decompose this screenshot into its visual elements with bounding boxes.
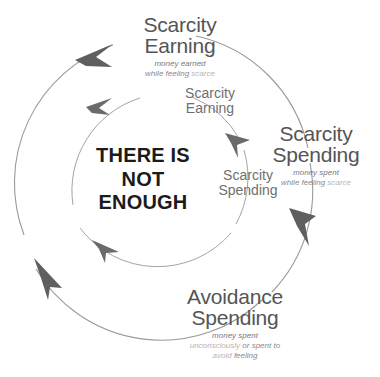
stage-title-line-2: Spending [252,144,380,165]
stage-title-line-1: Avoidance [160,286,310,307]
stage-label-avoidance-spending-outer: Avoidance Spending money spent unconscio… [160,286,310,362]
stage-subtitle: money earned while feeling scarce [100,59,260,79]
stage-title-line-2: Earning [160,101,260,116]
stage-title-line-2: Spending [160,307,310,328]
stage-title-line-1: Scarcity [160,86,260,101]
stage-subtitle-line-2-lead: while feeling [145,69,191,78]
center-line-2: NOT [78,168,208,192]
stage-subtitle-line-3: avoid feeling [160,351,310,361]
stage-title-line-2: Spending [198,183,298,198]
stage-subtitle-line-2: while feeling scarce [100,69,260,79]
stage-subtitle-line-1: money spent [160,331,310,341]
stage-subtitle-line-3-emphasis: feeling [234,351,258,360]
outer-arrowhead-bottom-left [34,258,62,300]
inner-arrowhead-top-left [86,98,112,115]
stage-label-scarcity-earning-inner: Scarcity Earning [160,86,260,116]
stage-subtitle-line-2-emphasis: scarce [191,69,215,78]
stage-title-line-1: Scarcity [252,123,380,144]
center-line-1: THERE IS [78,144,208,168]
stage-subtitle-line-2-emphasis: or spent to [242,341,280,350]
outer-arrowhead-right [289,208,316,246]
stage-title-line-1: Scarcity [198,168,298,183]
stage-subtitle-line-3-lead: avoid [213,351,234,360]
stage-subtitle-line-2-emphasis: scarce [327,178,351,187]
stage-subtitle-line-2: unconsciously or spent to [160,341,310,351]
center-belief-text: THERE IS NOT ENOUGH [78,144,208,215]
stage-label-scarcity-earning-outer: Scarcity Earning money earned while feel… [100,14,260,79]
stage-title-line-2: Earning [100,35,260,56]
stage-subtitle-line-1: money earned [100,59,260,69]
inner-arrowhead-bottom-left [92,240,119,263]
stage-label-scarcity-spending-inner: Scarcity Spending [198,168,298,198]
scarcity-cycle-diagram: THERE IS NOT ENOUGH Scarcity Earning mon… [0,0,380,377]
stage-title-line-1: Scarcity [100,14,260,35]
stage-subtitle: money spent unconsciously or spent to av… [160,331,310,362]
center-line-3: ENOUGH [78,191,208,215]
stage-subtitle-line-2-lead: unconsciously [190,341,242,350]
inner-arrowhead-right [225,133,250,158]
